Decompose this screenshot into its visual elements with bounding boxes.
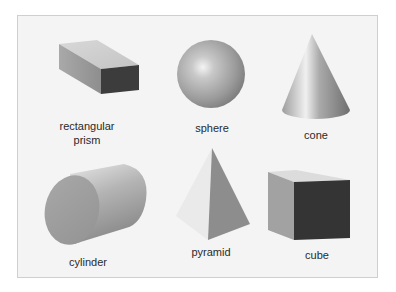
cylinder-label: cylinder xyxy=(69,256,107,269)
rectangular-prism-shape xyxy=(55,38,145,98)
cone-shape xyxy=(278,32,354,124)
cube-label: cube xyxy=(305,249,329,262)
cube-shape xyxy=(266,170,352,242)
cone-label: cone xyxy=(304,129,328,142)
cylinder-shape xyxy=(42,162,150,248)
pyramid-shape xyxy=(172,146,254,242)
pyramid-label: pyramid xyxy=(191,246,230,259)
sphere-shape xyxy=(175,38,247,110)
sphere-label: sphere xyxy=(195,122,229,135)
rectangular-prism-label-line2: prism xyxy=(74,134,101,147)
rectangular-prism-label-line1: rectangular xyxy=(59,120,114,133)
